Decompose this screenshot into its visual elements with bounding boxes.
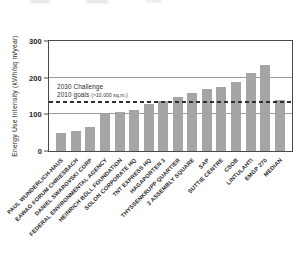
bar-2 [85,127,95,151]
bar-3 [100,114,110,151]
annotation-line-2: 2010 goals (>10,000 sq.m.) [57,91,128,99]
cropped-text-artifact [86,0,108,3]
annotation-note: (>10,000 sq.m.) [91,92,128,98]
bar-1 [71,131,81,151]
plot-area: 2030 Challenge 2010 goals (>10,000 sq.m.… [48,40,293,152]
y-tick-label-0: 0 [38,147,42,156]
reference-dashed-line [49,101,292,103]
energy-use-intensity-chart: Energy Use Intensity (kWh/sq m/year) 203… [0,0,307,264]
annotation-line-1: 2030 Challenge [57,83,128,91]
y-tick-300 [44,41,49,42]
bar-7 [158,101,168,151]
reference-line-annotation: 2030 Challenge 2010 goals (>10,000 sq.m.… [57,83,128,100]
bar-10 [202,89,212,151]
bar-13 [246,73,256,151]
y-tick-label-200: 200 [29,73,42,82]
y-axis-title: Energy Use Intensity (kWh/sq m/year) [11,35,18,157]
bar-4 [115,112,125,151]
bar-0 [56,133,66,151]
bar-11 [216,87,226,151]
bar-14 [260,65,270,151]
bar-5 [129,110,139,151]
y-tick-label-100: 100 [29,110,42,119]
bar-15 [275,100,285,151]
cropped-text-artifact [146,0,162,2]
bar-8 [173,97,183,151]
x-axis-labels: PAUL WUNDERLICH-HAUSEAWAG FORUM CHRIESBA… [48,152,293,264]
y-tick-100 [44,114,49,115]
bar-6 [144,104,154,151]
y-tick-200 [44,77,49,78]
bar-12 [231,82,241,151]
y-tick-label-300: 300 [29,37,42,46]
cropped-text-artifact [30,0,50,3]
